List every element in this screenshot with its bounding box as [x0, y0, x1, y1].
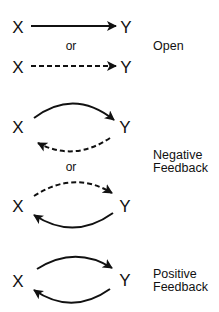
positive-category-line-2: Feedback	[153, 281, 208, 294]
neg-x-label-1: X	[12, 119, 23, 136]
neg1-backward-dashed-arrow	[38, 138, 110, 151]
neg-or-label: or	[66, 161, 77, 174]
neg-y-label-1: Y	[119, 119, 130, 136]
negative-category-line-2: Feedback	[153, 162, 208, 175]
open-y-label-2: Y	[120, 59, 131, 76]
pos-backward-solid-arrow	[34, 289, 110, 303]
open-x-label-1: X	[12, 19, 23, 36]
open-category-label: Open	[153, 40, 184, 53]
neg2-forward-dashed-arrow	[34, 182, 112, 196]
open-x-label-2: X	[12, 59, 23, 76]
neg-x-label-2: X	[12, 198, 23, 215]
open-or-label: or	[66, 40, 77, 53]
open-y-label-1: Y	[120, 19, 131, 36]
pos-forward-solid-arrow	[37, 257, 112, 269]
neg2-backward-solid-arrow	[34, 213, 113, 228]
pos-x-label: X	[12, 273, 23, 290]
pos-y-label: Y	[119, 272, 130, 289]
positive-category-line-1: Positive	[153, 268, 197, 281]
neg-y-label-2: Y	[119, 198, 130, 215]
neg1-forward-solid-arrow	[34, 103, 114, 120]
negative-category-line-1: Negative	[153, 149, 202, 162]
